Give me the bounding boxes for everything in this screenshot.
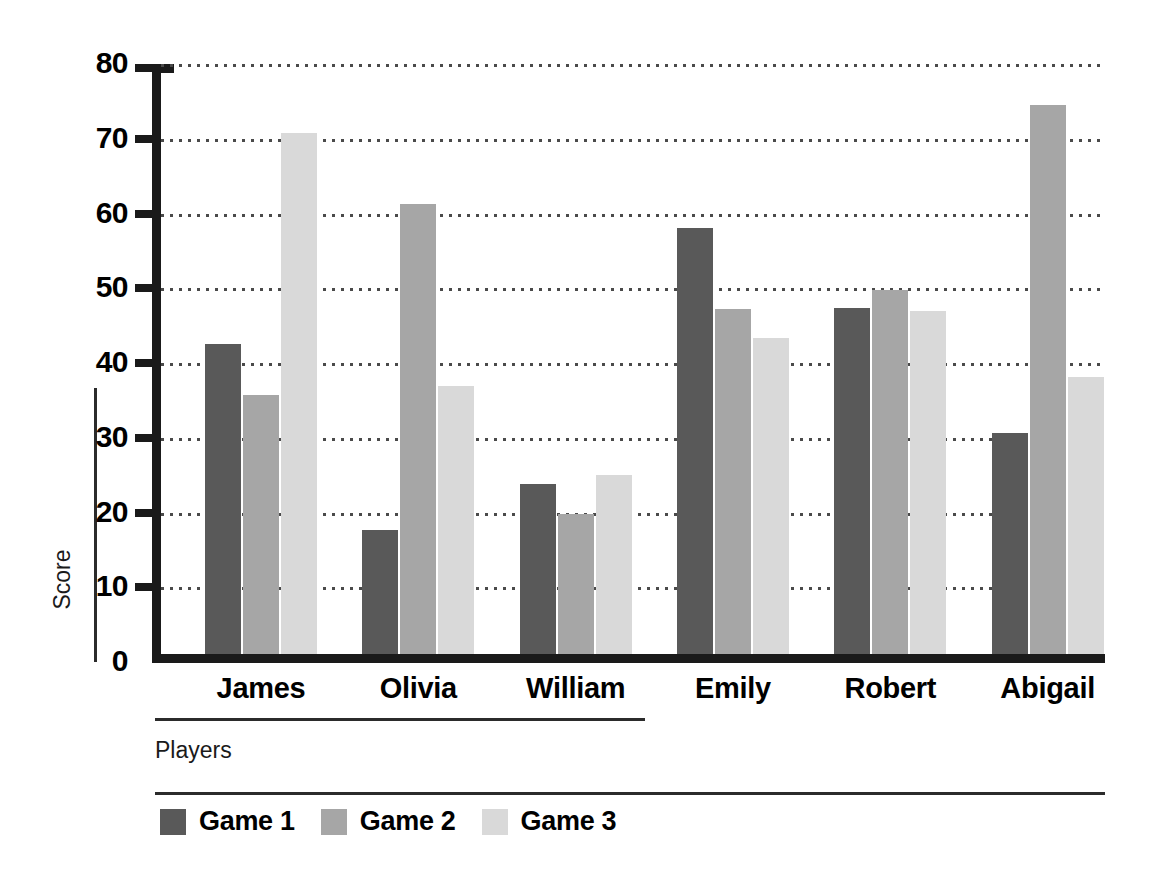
bar <box>438 386 474 662</box>
bar <box>558 514 594 662</box>
bar-chart: Score 01020304050607080 JamesOliviaWilli… <box>0 0 1168 887</box>
x-axis-title: Players <box>155 737 232 764</box>
y-axis-tick <box>135 359 152 367</box>
y-axis-tick-label: 60 <box>70 198 128 228</box>
y-axis-tick-label-wrap: 70 <box>56 123 128 153</box>
legend-item[interactable]: Game 2 <box>321 806 456 837</box>
y-axis-tick <box>135 434 152 442</box>
legend-swatch <box>160 809 186 835</box>
y-axis-tick-label-wrap: 50 <box>56 272 128 302</box>
bar <box>753 338 789 662</box>
legend: Game 1Game 2Game 3 <box>160 806 642 837</box>
bar <box>362 530 398 662</box>
y-axis-tick-label: 10 <box>70 571 128 601</box>
y-axis-tick <box>135 284 152 292</box>
y-axis-tick-label-wrap: 80 <box>56 48 128 78</box>
x-axis-category-label: Abigail <box>948 672 1148 705</box>
y-axis-tick-label: 40 <box>70 347 128 377</box>
bar <box>834 308 870 662</box>
bar <box>872 290 908 662</box>
x-axis-title-rule <box>155 718 645 721</box>
bar <box>715 309 751 662</box>
bar <box>400 204 436 662</box>
x-axis-baseline <box>152 654 1105 663</box>
y-axis-tick <box>135 583 152 591</box>
bar <box>596 475 632 662</box>
y-axis-tick-label: 30 <box>70 422 128 452</box>
bar <box>1030 105 1066 662</box>
legend-label: Game 3 <box>521 806 617 837</box>
bar <box>243 395 279 662</box>
y-axis-tick-label: 50 <box>70 272 128 302</box>
y-axis-tick-label-wrap: 60 <box>56 198 128 228</box>
y-axis-tick-label-wrap: 30 <box>56 422 128 452</box>
y-axis-tick <box>135 509 152 517</box>
bar <box>520 484 556 662</box>
bar <box>281 133 317 662</box>
legend-swatch <box>482 809 508 835</box>
legend-swatch <box>321 809 347 835</box>
y-axis-tick-label: 80 <box>70 48 128 78</box>
y-axis-tick-label: 0 <box>70 646 128 676</box>
bar <box>677 228 713 662</box>
plot-area <box>161 64 1105 662</box>
legend-item[interactable]: Game 3 <box>482 806 617 837</box>
legend-label: Game 1 <box>199 806 295 837</box>
gridline <box>161 64 1105 67</box>
legend-rule <box>155 792 1105 795</box>
y-axis-spine <box>152 64 161 662</box>
legend-label: Game 2 <box>360 806 456 837</box>
y-axis-tick-label-wrap: 40 <box>56 347 128 377</box>
y-axis-tick-label-wrap: 0 <box>56 646 128 676</box>
bar <box>1068 377 1104 662</box>
y-axis-tick-label-wrap: 20 <box>56 497 128 527</box>
y-axis-tick <box>135 210 152 218</box>
y-axis-tick <box>135 64 152 72</box>
y-axis-tick-label: 20 <box>70 497 128 527</box>
bar <box>992 433 1028 662</box>
bar <box>205 344 241 662</box>
bar <box>910 311 946 662</box>
y-axis-tick-label-wrap: 10 <box>56 571 128 601</box>
y-axis-tick-label: 70 <box>70 123 128 153</box>
y-axis-tick <box>135 135 152 143</box>
legend-item[interactable]: Game 1 <box>160 806 295 837</box>
